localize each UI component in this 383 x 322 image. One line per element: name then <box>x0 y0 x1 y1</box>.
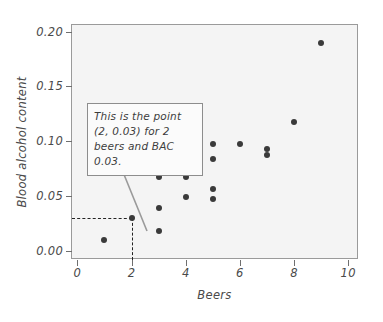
scatter-point <box>318 40 324 46</box>
y-axis-tick <box>66 196 72 197</box>
x-axis-title-label: Beers <box>197 288 231 302</box>
y-axis-tick-label: 0.20 <box>36 25 63 39</box>
x-axis-tick-label: 4 <box>182 266 190 280</box>
y-axis-tick-label: 0.10 <box>36 134 63 148</box>
scatter-point <box>101 237 107 243</box>
scatter-point <box>183 194 189 200</box>
scatter-point <box>156 228 162 234</box>
guide-line-horizontal <box>72 218 132 219</box>
x-axis-title: Beers <box>71 288 358 302</box>
y-axis-tick <box>66 86 72 87</box>
chart-screenshot: Blood alcohol content 0.000.050.100.150.… <box>0 0 383 322</box>
scatter-point <box>291 119 297 125</box>
annotation-line-1: This is the point <box>94 109 196 124</box>
annotation-callout: This is the point (2, 0.03) for 2 beers … <box>87 103 203 176</box>
y-axis-tick-label: 0.00 <box>36 244 63 258</box>
guide-line-vertical <box>132 218 133 260</box>
scatter-point <box>264 152 270 158</box>
annotation-line-2: (2, 0.03) for 2 <box>94 124 196 139</box>
scatter-point <box>210 141 216 147</box>
x-axis-tick-label: 8 <box>290 266 298 280</box>
x-axis-tick-label: 2 <box>128 266 136 280</box>
x-axis-tick-label: 6 <box>236 266 244 280</box>
scatter-point <box>129 215 135 221</box>
annotation-line-3: beers and BAC 0.03. <box>94 139 196 169</box>
y-axis-tick-label: 0.05 <box>36 189 63 203</box>
y-axis-tick-label: 0.15 <box>36 79 63 93</box>
y-axis-tick <box>66 32 72 33</box>
x-axis-tick-label: 0 <box>74 266 82 280</box>
scatter-point <box>156 205 162 211</box>
scatter-point <box>210 196 216 202</box>
y-axis-tick <box>66 251 72 252</box>
y-axis-title-label: Blood alcohol content <box>15 76 29 207</box>
scatter-point <box>210 156 216 162</box>
y-axis-tick <box>66 141 72 142</box>
scatter-point <box>264 146 270 152</box>
scatter-point <box>210 186 216 192</box>
x-axis-tick-label: 10 <box>341 266 356 280</box>
y-axis-title: Blood alcohol content <box>14 24 30 259</box>
scatter-point <box>237 141 243 147</box>
